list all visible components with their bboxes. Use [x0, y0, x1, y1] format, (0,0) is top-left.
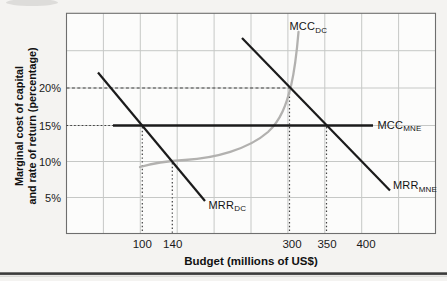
x-tick-400: 400: [356, 238, 375, 250]
scan-artifact: [6, 0, 58, 6]
mcc-mne-label-sub: MNE: [403, 124, 421, 133]
x-tick-350: 350: [317, 238, 336, 250]
y-axis-title-line2: and rate of return (percentage): [26, 47, 38, 205]
mcc-dc-label-main: MCC: [290, 20, 316, 32]
mrr-mne-label-main: MRR: [393, 179, 419, 191]
y-axis-ticks: 20% 15% 10% 5%: [39, 82, 61, 204]
mrr-dc-label-main: MRR: [209, 199, 235, 211]
mcc-dc-label-sub: DC: [315, 26, 327, 35]
x-axis-ticks: 100 140 300 350 400: [133, 238, 376, 250]
y-tick-5: 5%: [45, 192, 61, 204]
x-tick-300: 300: [282, 238, 301, 250]
x-axis-title: Budget (millions of US$): [184, 255, 318, 267]
y-axis-title: Marginal cost of capital and rate of ret…: [13, 47, 38, 205]
bottom-rule-dark: [0, 272, 447, 275]
mrr-mne-label-sub: MNE: [419, 185, 437, 194]
x-tick-100: 100: [133, 238, 152, 250]
y-tick-15: 15%: [39, 120, 61, 132]
x-tick-140: 140: [163, 238, 182, 250]
economics-figure: 20% 15% 10% 5% 100 140 300 350 400 MCCDC…: [0, 0, 447, 281]
mrr-dc-label-sub: DC: [234, 204, 246, 213]
mcc-mne-label-main: MCC: [378, 119, 404, 131]
bottom-rule: [0, 272, 447, 276]
y-tick-20: 20%: [39, 82, 61, 94]
chart-canvas: 20% 15% 10% 5% 100 140 300 350 400 MCCDC…: [0, 0, 447, 281]
y-tick-10: 10%: [39, 156, 61, 168]
y-axis-title-line1: Marginal cost of capital: [13, 66, 25, 186]
